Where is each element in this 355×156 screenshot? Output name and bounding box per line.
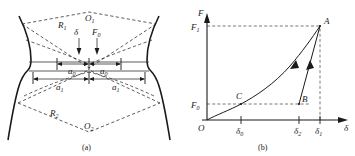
panel-b-force-deflection-chart: F δ O F1 F0: [178, 0, 355, 156]
panel-a-contact-geometry: a0 a0: [0, 0, 178, 156]
dimension-a0-left-label: a0: [68, 66, 76, 77]
force-arrow: F0: [91, 27, 101, 55]
panel-b-caption: (b): [258, 143, 268, 152]
point-B-label: B: [302, 94, 308, 104]
point-A-label: A: [323, 16, 330, 26]
x-tick-delta1: δ1: [315, 126, 322, 137]
center-bottom-label: O2: [84, 121, 94, 132]
center-top-label: O1: [85, 13, 95, 24]
x-axis-label: δ: [344, 123, 349, 133]
body-contour-right: [147, 16, 170, 140]
point-B-marker: [298, 103, 300, 105]
y-tick-F1: F1: [190, 22, 200, 33]
loading-curve: [207, 26, 320, 120]
x-tick-delta0: δ0: [236, 126, 243, 137]
y-axis: F: [197, 8, 210, 120]
dimension-a0-right: a0: [89, 62, 121, 77]
y-axis-label: F: [197, 8, 204, 18]
panel-a-svg: a0 a0: [0, 0, 178, 156]
point-C-label: C: [236, 91, 243, 101]
body-contour-left: [8, 16, 31, 140]
figure-root: a0 a0: [0, 0, 355, 156]
unloading-direction-arrow: [306, 60, 314, 70]
dimension-a1-left-label: a1: [56, 82, 64, 93]
delta-arrow: δ: [74, 27, 81, 55]
point-C-marker: [240, 103, 242, 105]
x-tick-delta2: δ2: [294, 126, 301, 137]
x-axis: δ: [202, 117, 349, 133]
panel-a-caption: (a): [82, 143, 91, 152]
point-A-marker: [319, 25, 321, 27]
dimension-a1-left: a1: [33, 77, 89, 93]
guide-lines: [207, 26, 320, 120]
panel-b-svg: F δ O F1 F0: [178, 0, 355, 156]
dimension-a0-right-label: a0: [100, 66, 108, 77]
radius-top-label: R1: [57, 20, 67, 31]
delta-arrow-label: δ: [74, 27, 79, 37]
dimension-a1-right: a1: [89, 77, 145, 93]
dimension-a0-left: a0: [57, 62, 89, 77]
a1-extension-ticks: [33, 72, 145, 84]
force-arrow-label: F0: [91, 27, 101, 38]
origin-label: O: [198, 123, 205, 133]
y-tick-F0: F0: [190, 100, 200, 111]
radius-bottom-label: R2: [49, 108, 59, 119]
